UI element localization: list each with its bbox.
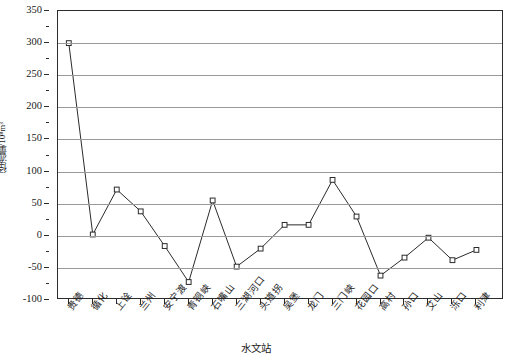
- y-axis-tick-label: 350: [26, 5, 42, 16]
- y-axis-minor-tick: [46, 122, 49, 123]
- data-point: [210, 198, 215, 203]
- gridline: [58, 204, 502, 205]
- series-line: [69, 43, 477, 282]
- data-point: [402, 255, 407, 260]
- y-axis-minor-tick: [46, 251, 49, 252]
- y-axis-tick-label: 200: [26, 101, 42, 112]
- y-axis-tick: [44, 10, 49, 11]
- data-point: [186, 280, 191, 285]
- y-axis-tick-label: 50: [32, 197, 43, 208]
- data-point: [162, 244, 167, 249]
- y-axis-tick-label: 150: [26, 133, 42, 144]
- gridline: [58, 236, 502, 237]
- plot-area: [57, 10, 503, 299]
- y-axis-minor-tick: [46, 155, 49, 156]
- y-axis-minor-tick: [46, 283, 49, 284]
- y-axis-tick: [44, 171, 49, 172]
- x-axis-title: 水文站: [0, 340, 511, 355]
- data-point: [138, 209, 143, 214]
- series-markers: [66, 41, 478, 285]
- data-series: [58, 11, 504, 300]
- y-axis-tick-label: 0: [37, 230, 42, 241]
- y-axis-tick-label: 100: [26, 165, 42, 176]
- gridline: [58, 43, 502, 44]
- y-axis-minor-tick: [46, 187, 49, 188]
- data-point: [354, 214, 359, 219]
- data-point: [258, 246, 263, 251]
- gridline: [58, 139, 502, 140]
- gridline: [58, 107, 502, 108]
- data-point: [378, 273, 383, 278]
- gridline: [58, 172, 502, 173]
- y-axis-tick: [44, 267, 49, 268]
- data-point: [450, 258, 455, 263]
- y-axis-tick: [44, 42, 49, 43]
- y-axis-tick-label: 250: [26, 69, 42, 80]
- data-point: [114, 187, 119, 192]
- gridline: [58, 268, 502, 269]
- y-axis-tick: [44, 74, 49, 75]
- y-axis-minor-tick: [46, 26, 49, 27]
- data-point: [282, 222, 287, 227]
- data-point: [306, 222, 311, 227]
- y-axis-tick: [44, 138, 49, 139]
- gridline: [58, 75, 502, 76]
- y-axis-minor-tick: [46, 90, 49, 91]
- data-point: [474, 248, 479, 253]
- y-axis-tick: [44, 203, 49, 204]
- data-point: [330, 178, 335, 183]
- y-axis-tick-label: 300: [26, 37, 42, 48]
- y-axis-tick: [44, 106, 49, 107]
- y-axis-tick-label: -50: [28, 262, 42, 273]
- y-axis-minor-tick: [46, 58, 49, 59]
- runoff-line-chart: 径流量/10⁸m³ 350300250200150100500-50-100 贵…: [0, 0, 511, 361]
- y-axis-tick: [44, 235, 49, 236]
- y-axis-minor-tick: [46, 219, 49, 220]
